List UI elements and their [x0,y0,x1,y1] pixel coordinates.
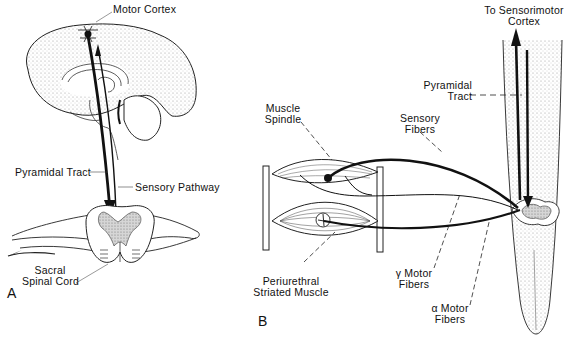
label-muscle-spindle: Muscle Spindle [263,103,303,125]
neuroanatomy-figure: Motor Cortex Pyramidal Tract Sensory Pat… [0,0,565,340]
label-gamma-fibers-line2: Fibers [390,279,438,290]
panel-b-periurethral-muscle [272,202,378,235]
label-gamma-motor-fibers: γ Motor Fibers [390,268,438,290]
label-fibers-line2: Fibers [395,124,445,135]
panel-letter-b: B [258,313,267,329]
label-sacral-spinal-cord: Sacral Spinal Cord [22,265,78,287]
label-to-sensorimotor-cortex: To Sensorimotor Cortex [476,5,565,27]
label-sensory-pathway: Sensory Pathway [135,182,220,193]
label-sensory-fibers: Sensory Fibers [395,113,445,135]
label-alpha-fibers-line2: Fibers [426,314,474,325]
label-pyramidal-tract-b: Pyramidal Tract [420,80,472,102]
panel-b-spinal-cord [470,28,562,334]
label-pyramidal-tract: Pyramidal Tract [15,167,91,178]
label-cortex-line2: Cortex [476,16,565,27]
label-periurethral-striated-muscle: Periurethral Striated Muscle [250,276,332,298]
label-striated-muscle-line2: Striated Muscle [250,287,332,298]
label-spindle-line2: Spindle [263,114,303,125]
label-spinal-cord-line2: Spinal Cord [22,276,78,287]
label-alpha-motor-fibers: α Motor Fibers [426,303,474,325]
label-tract-line2: Tract [420,91,472,102]
motor-cortex-leader [96,12,112,22]
panel-letter-a: A [7,285,16,301]
label-motor-cortex: Motor Cortex [113,4,176,15]
